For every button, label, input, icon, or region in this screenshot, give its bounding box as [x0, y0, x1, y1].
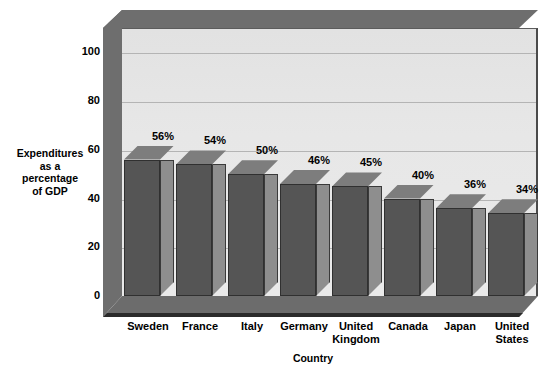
y-axis-tick-labels: 020406080100 — [66, 0, 100, 373]
bar-column — [436, 208, 472, 296]
bar-value-label: 56% — [152, 130, 174, 142]
y-axis-tick-label: 40 — [66, 193, 100, 204]
bar-top-face — [488, 199, 538, 213]
plot-area: 56%54%50%46%45%40%36%34% — [103, 10, 538, 317]
y-axis-tick-label: 60 — [66, 144, 100, 155]
y-axis-tick-label: 20 — [66, 241, 100, 252]
bar-side-face — [316, 184, 330, 296]
bar-side-face — [472, 208, 486, 296]
bar-column — [124, 160, 160, 296]
bar-top-face — [436, 194, 486, 208]
x-axis-tick-labels: SwedenFranceItalyGermanyUnited KingdomCa… — [103, 320, 543, 350]
bar-value-label: 45% — [360, 156, 382, 168]
bar-column — [332, 186, 368, 296]
bar-column — [280, 184, 316, 296]
bar-front-face — [176, 164, 212, 296]
bar-value-label: 46% — [308, 154, 330, 166]
bar-side-face — [212, 164, 226, 296]
bar-front-face — [280, 184, 316, 296]
bar-front-face — [436, 208, 472, 296]
x-axis-tick-label: United States — [480, 320, 544, 346]
bar-top-face — [124, 146, 174, 160]
bar-top-face — [384, 185, 434, 199]
bar-column — [384, 199, 420, 296]
x-axis-title: Country — [103, 352, 523, 364]
bar-front-face — [228, 174, 264, 296]
bar-value-label: 54% — [204, 134, 226, 146]
bar-side-face — [160, 160, 174, 296]
bar-value-label: 40% — [412, 169, 434, 181]
bar-front-face — [384, 199, 420, 296]
bar-top-face — [332, 172, 382, 186]
bar-front-face — [124, 160, 160, 296]
bar-top-face — [228, 160, 278, 174]
bar-column — [228, 174, 264, 296]
y-axis-tick-label: 0 — [66, 290, 100, 301]
bar-column — [488, 213, 524, 296]
bar-side-face — [368, 186, 382, 296]
bar-top-face — [176, 150, 226, 164]
bar-front-face — [332, 186, 368, 296]
bar-value-label: 36% — [464, 178, 486, 190]
bar-value-label: 50% — [256, 144, 278, 156]
bar-side-face — [420, 199, 434, 296]
bar-chart: Expenditures as a percentage of GDP 0204… — [0, 0, 546, 373]
plot-floor-edge — [103, 313, 538, 317]
bar-value-label: 34% — [516, 183, 538, 195]
bar-side-face — [524, 213, 538, 296]
bar-side-face — [264, 174, 278, 296]
bars-layer: 56%54%50%46%45%40%36%34% — [103, 10, 538, 317]
bar-top-face — [280, 170, 330, 184]
y-axis-tick-label: 80 — [66, 95, 100, 106]
bar-front-face — [488, 213, 524, 296]
y-axis-tick-label: 100 — [66, 46, 100, 57]
bar-column — [176, 164, 212, 296]
